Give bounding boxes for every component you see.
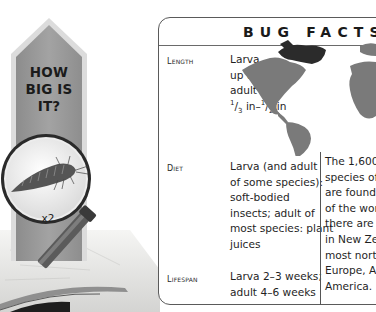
- range-line: The 1,600: [325, 154, 376, 170]
- range-line: in New Ze: [325, 232, 376, 248]
- pillar-title: HOW BIG IS IT?: [9, 64, 89, 115]
- title-line: BIG IS: [9, 81, 89, 98]
- title-line: HOW: [9, 64, 89, 81]
- fact-value-lifespan: Larva 2–3 weeks; adult 4–6 weeks: [230, 269, 340, 300]
- range-line: most nort: [325, 248, 376, 264]
- range-description: The 1,600 species of are found of the wo…: [325, 154, 376, 294]
- title-line: IT?: [9, 98, 89, 115]
- range-line: Europe, As: [325, 263, 376, 279]
- range-line: species of: [325, 170, 376, 186]
- fact-label-lifespan: Lifespan: [167, 275, 198, 284]
- value-line: adult 4–6 weeks: [230, 285, 340, 301]
- magnification-label: x2: [38, 212, 58, 224]
- magnifying-glass-icon: [0, 132, 160, 272]
- range-line: of the wor: [325, 201, 376, 217]
- range-divider: [320, 152, 321, 305]
- range-line: America.: [325, 279, 376, 295]
- value-line: Larva 2–3 weeks;: [230, 269, 340, 285]
- world-map-illustration: [240, 36, 376, 156]
- fact-label-diet: Diet: [167, 164, 183, 173]
- range-line: there are a: [325, 216, 376, 232]
- range-line: are found: [325, 185, 376, 201]
- fact-label-length: Length: [167, 57, 194, 66]
